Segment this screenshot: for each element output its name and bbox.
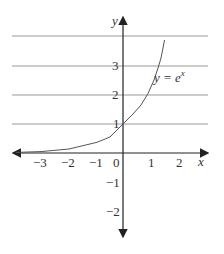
x-tick: 0 bbox=[113, 155, 120, 170]
exp-curve bbox=[16, 40, 165, 152]
exponential-graph: y x −3 −2 −1 0 1 2 3 2 1 −1 −2 y = ex bbox=[0, 0, 224, 254]
y-axis-label: y bbox=[110, 13, 118, 28]
x-tick: −1 bbox=[89, 155, 103, 170]
y-tick: 3 bbox=[112, 58, 119, 73]
y-tick: −1 bbox=[106, 175, 120, 190]
curve-annotation: y = ex bbox=[152, 68, 185, 85]
x-tick: −2 bbox=[61, 155, 75, 170]
axis-labels: y x −3 −2 −1 0 1 2 3 2 1 −1 −2 y = ex bbox=[33, 13, 204, 219]
y-tick: −2 bbox=[106, 204, 120, 219]
x-tick: −3 bbox=[33, 155, 47, 170]
y-tick: 1 bbox=[113, 116, 120, 131]
x-axis-label: x bbox=[197, 154, 204, 169]
x-tick: 2 bbox=[176, 155, 183, 170]
x-tick: 1 bbox=[148, 155, 155, 170]
y-tick: 2 bbox=[112, 87, 119, 102]
